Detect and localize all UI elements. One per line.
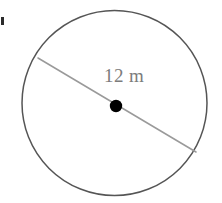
center-dot — [110, 100, 122, 112]
diameter-label: 12 m — [104, 66, 144, 85]
circle-diagram-figure: 12 m — [0, 0, 222, 203]
circle-diagram-canvas — [0, 0, 222, 203]
left-edge-tick — [1, 17, 4, 25]
